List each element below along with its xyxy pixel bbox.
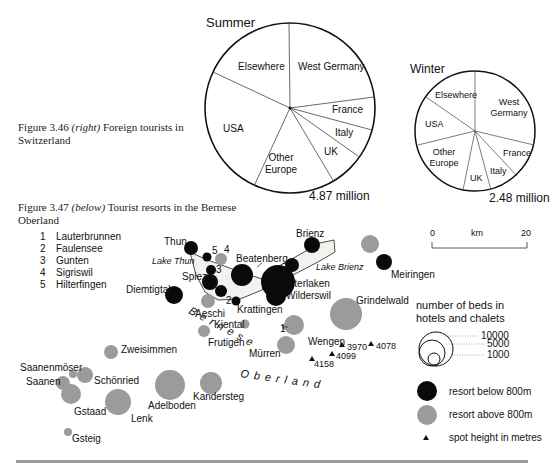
- label-aeschi: Aeschi: [195, 308, 225, 319]
- legend-spot-label: spot height in metres: [449, 432, 542, 443]
- spot-height-icon: [329, 351, 335, 356]
- key-number-4: 4: [40, 267, 46, 278]
- winter-slice-france: France: [503, 148, 531, 158]
- resort-aeschi: [201, 294, 215, 308]
- legend-1000: 1000: [487, 349, 510, 360]
- winter-title: Winter: [410, 62, 445, 76]
- label-lenk: Lenk: [131, 413, 154, 424]
- winter-slice-other-europe-2: Europe: [429, 158, 458, 168]
- spot-4099: 4099: [336, 351, 356, 361]
- label-gstaad: Gstaad: [74, 406, 106, 417]
- summer-slice-other-europe-1: Other: [268, 152, 294, 163]
- scale-min: 0: [430, 228, 435, 238]
- label-kandersteg: Kandersteg: [193, 391, 244, 402]
- label-meiringen: Meiringen: [391, 269, 435, 280]
- resort-zweisimmen: [104, 345, 118, 359]
- label-gsteig: Gsteig: [72, 433, 101, 444]
- label-saanen: Saanen: [26, 376, 60, 387]
- key-name-1: Lauterbrunnen: [56, 231, 121, 242]
- legend-size-title-2: hotels and chalets: [416, 312, 505, 324]
- label-wilderswil: Wilderswil: [286, 290, 331, 301]
- scale-bar: 0 km 20: [430, 228, 531, 248]
- lake-brienz-label: Lake Brienz: [316, 262, 364, 272]
- label-diemtigtal: Diemtigtal: [126, 284, 170, 295]
- label-5: 5: [212, 245, 218, 256]
- key-number-5: 5: [40, 279, 46, 290]
- label-saanenmoser: Saanenmöser: [20, 362, 83, 373]
- numbered-key: 1 Lauterbrunnen 2 Faulensee 3 Gunten 4 S…: [40, 231, 121, 290]
- lake-thun-label: Lake Thun: [152, 256, 195, 266]
- key-name-2: Faulensee: [56, 243, 103, 254]
- winter-slice-usa: USA: [425, 119, 444, 129]
- summer-slice-west-germany: West Germany: [298, 61, 365, 72]
- resort-beatenberg: [231, 264, 253, 286]
- key-number-1: 1: [40, 231, 46, 242]
- key-name-3: Gunten: [56, 255, 89, 266]
- label-adelboden: Adelboden: [148, 400, 196, 411]
- summer-slice-usa: USA: [223, 123, 244, 134]
- label-beatenberg: Beatenberg: [236, 253, 288, 264]
- resort-lauterbrunnen-large: [284, 315, 304, 335]
- label-grindelwald: Grindelwald: [356, 295, 409, 306]
- resort-gstaad: [61, 384, 81, 404]
- label-3: 3: [216, 264, 222, 275]
- legend-5000: 5000: [487, 338, 510, 349]
- label-spiez: Spiez: [182, 271, 207, 282]
- legend-circle-10000: [419, 332, 453, 366]
- resort-adelboden: [155, 370, 185, 400]
- summer-slice-uk: UK: [324, 146, 338, 157]
- resort-gunten: [206, 265, 216, 275]
- label-wengen: Wengen: [308, 336, 345, 347]
- label-krattingen: Krattingen: [237, 304, 283, 315]
- spot-height-icon: [368, 341, 374, 346]
- label-frutigen: Frutigen: [208, 337, 245, 348]
- resort-lenk: [105, 389, 131, 415]
- resort-wilderswil: [266, 286, 286, 306]
- svg-text:Oberland: Oberland: [240, 367, 326, 391]
- resort-hilterfingen: [203, 253, 212, 262]
- legend-above-label: resort above 800m: [449, 409, 532, 420]
- winter-pie-chart: Winter Elsewhere West Germany France Ita…: [410, 62, 550, 205]
- resort-brienz: [304, 237, 320, 253]
- label-schonried: Schönried: [94, 375, 139, 386]
- figure-canvas: Summer Elsewhere West Germany France Ita…: [0, 0, 552, 463]
- winter-slice-other-europe-1: Other: [433, 147, 456, 157]
- label-kiental: Kiental: [214, 319, 245, 330]
- label-zweisimmen: Zweisimmen: [121, 344, 177, 355]
- key-name-5: Hilterfingen: [56, 279, 107, 290]
- legend-circle-1000: [428, 353, 440, 365]
- resort-frutigen: [198, 325, 210, 337]
- legend-above-swatch: [417, 405, 437, 425]
- scale-unit: km: [471, 228, 483, 238]
- summer-slice-elsewhere: Elsewhere: [238, 61, 285, 72]
- key-number-2: 2: [40, 243, 46, 254]
- summer-slice-other-europe-2: Europe: [265, 164, 298, 175]
- legend-below-label: resort below 800m: [449, 386, 531, 397]
- resort-meiringen: [376, 254, 392, 270]
- winter-slice-west-germany-1: West: [499, 97, 520, 107]
- resort-hasliberg: [361, 235, 379, 253]
- label-4: 4: [224, 244, 230, 255]
- spot-4078: 4078: [376, 341, 396, 351]
- label-2: 2: [226, 295, 232, 306]
- label-1: 1: [280, 323, 286, 334]
- resort-gsteig: [64, 428, 72, 436]
- label-brienz: Brienz: [296, 228, 324, 239]
- label-thun: Thun: [164, 236, 187, 247]
- key-name-4: Sigriswil: [56, 267, 93, 278]
- spot-4158: 4158: [314, 359, 334, 369]
- legend-spot-icon: [423, 435, 429, 440]
- winter-slice-elsewhere: Elsewhere: [435, 90, 477, 100]
- winter-total: 2.48 million: [489, 191, 550, 205]
- winter-slice-italy: Italy: [490, 166, 507, 176]
- winter-slice-uk: UK: [470, 173, 483, 183]
- legend-size-title-1: number of beds in: [416, 299, 504, 311]
- label-murren: Mürren: [249, 348, 281, 359]
- winter-slice-west-germany-2: Germany: [490, 108, 528, 118]
- summer-slice-italy: Italy: [335, 127, 353, 138]
- label-interlaken: Interlaken: [286, 278, 330, 289]
- summer-slice-france: France: [332, 104, 364, 115]
- summer-title: Summer: [206, 15, 256, 30]
- scale-max: 20: [521, 228, 531, 238]
- key-number-3: 3: [40, 255, 46, 266]
